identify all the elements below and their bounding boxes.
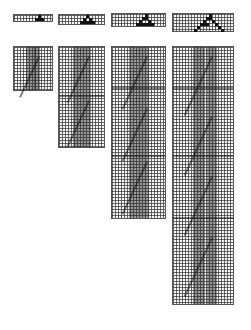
evolution-grid <box>172 46 234 305</box>
separator-line <box>173 87 233 89</box>
separator-line <box>112 155 165 157</box>
evolution-grid <box>58 46 105 148</box>
black-cell <box>221 29 224 32</box>
black-cell <box>206 23 209 26</box>
separator-line <box>173 155 233 157</box>
evolution-grid <box>13 46 53 91</box>
black-cell <box>41 18 44 21</box>
black-cell <box>197 26 200 29</box>
dense-region <box>141 47 149 218</box>
black-cell <box>194 29 197 32</box>
separator-line <box>173 217 233 219</box>
initial-condition-grid <box>172 13 234 32</box>
black-cell <box>151 23 154 26</box>
black-cell <box>92 21 95 24</box>
dense-region <box>34 47 40 90</box>
dense-region <box>207 47 217 304</box>
initial-condition-grid <box>111 13 166 27</box>
separator-line <box>112 87 165 89</box>
evolution-grid <box>111 46 166 219</box>
separator-line <box>59 95 104 97</box>
initial-condition-grid <box>58 14 105 25</box>
initial-condition-grid <box>13 14 53 22</box>
